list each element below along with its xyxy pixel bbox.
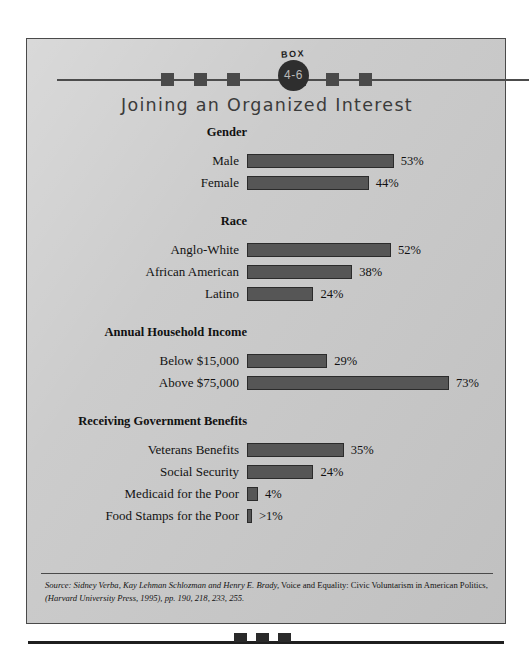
box-panel: BOX 4-6 Joining an Organized Interest Ge… bbox=[26, 38, 506, 624]
source-publisher: (Harvard University Press, 1995), bbox=[45, 593, 163, 603]
group-heading: Race bbox=[27, 214, 247, 229]
badge-number: 4-6 bbox=[278, 60, 309, 91]
bar-value: 53% bbox=[401, 154, 424, 169]
chart-group-1: GenderMale53%Female44% bbox=[27, 125, 507, 194]
source-prefix: Source: bbox=[45, 580, 71, 590]
bar-fill bbox=[247, 509, 252, 523]
bar-row: Medicaid for the Poor4% bbox=[27, 483, 507, 505]
bar-track: 4% bbox=[247, 487, 507, 502]
badge-box-label: BOX bbox=[270, 47, 317, 60]
bar-fill bbox=[247, 443, 344, 457]
source-divider bbox=[41, 573, 493, 574]
bar-value: 35% bbox=[351, 443, 374, 458]
bar-row: Anglo-White52% bbox=[27, 239, 507, 261]
bar-row: Male53% bbox=[27, 150, 507, 172]
top-decorative-square-1 bbox=[161, 73, 174, 86]
bar-value: 38% bbox=[359, 265, 382, 280]
bar-track: 35% bbox=[247, 443, 507, 458]
bar-row: Above $75,00073% bbox=[27, 372, 507, 394]
bar-row: Latino24% bbox=[27, 283, 507, 305]
bar-row: African American38% bbox=[27, 261, 507, 283]
group-spacer bbox=[27, 140, 507, 150]
bar-value: 52% bbox=[398, 243, 421, 258]
bar-track: 52% bbox=[247, 243, 507, 258]
bar-label: Veterans Benefits bbox=[27, 442, 247, 458]
group-heading: Annual Household Income bbox=[27, 325, 247, 340]
chart-group-3: Annual Household IncomeBelow $15,00029%A… bbox=[27, 325, 507, 394]
bar-row: Female44% bbox=[27, 172, 507, 194]
bar-fill bbox=[247, 487, 258, 501]
bar-value: 4% bbox=[265, 487, 282, 502]
top-decorative-square-6 bbox=[359, 73, 372, 86]
box-badge: BOX 4-6 bbox=[270, 49, 316, 105]
bar-label: Below $15,000 bbox=[27, 353, 247, 369]
bar-label: Female bbox=[27, 175, 247, 191]
chart-group-4: Receiving Government BenefitsVeterans Be… bbox=[27, 414, 507, 527]
bar-label: African American bbox=[27, 264, 247, 280]
bottom-decorative-square-1 bbox=[234, 633, 247, 642]
bar-row: Veterans Benefits35% bbox=[27, 439, 507, 461]
bar-fill bbox=[247, 376, 449, 390]
bar-row: Food Stamps for the Poor>1% bbox=[27, 505, 507, 527]
bar-track: 53% bbox=[247, 154, 507, 169]
chart-group-2: RaceAnglo-White52%African American38%Lat… bbox=[27, 214, 507, 305]
top-decorative-square-2 bbox=[194, 73, 207, 86]
bar-label: Male bbox=[27, 153, 247, 169]
top-decorative-square-3 bbox=[227, 73, 240, 86]
bar-row: Below $15,00029% bbox=[27, 350, 507, 372]
bar-track: 44% bbox=[247, 176, 507, 191]
bar-value: 24% bbox=[320, 287, 343, 302]
bar-fill bbox=[247, 287, 313, 301]
bar-value: 73% bbox=[456, 376, 479, 391]
group-spacer bbox=[27, 340, 507, 350]
group-spacer bbox=[27, 229, 507, 239]
bar-label: Food Stamps for the Poor bbox=[27, 508, 247, 524]
source-pages: pp. 190, 218, 233, 255. bbox=[165, 593, 245, 603]
bar-row: Social Security24% bbox=[27, 461, 507, 483]
source-work: Voice and Equality: Civic Voluntarism in… bbox=[281, 580, 488, 590]
chart-area: GenderMale53%Female44%RaceAnglo-White52%… bbox=[27, 125, 507, 527]
bar-value: >1% bbox=[259, 509, 283, 524]
bar-label: Anglo-White bbox=[27, 242, 247, 258]
bar-fill bbox=[247, 265, 352, 279]
bottom-decorative-square-3 bbox=[278, 633, 291, 642]
bar-label: Above $75,000 bbox=[27, 375, 247, 391]
bar-fill bbox=[247, 465, 313, 479]
bar-track: 73% bbox=[247, 376, 507, 391]
bar-track: >1% bbox=[247, 509, 507, 524]
bar-track: 24% bbox=[247, 287, 507, 302]
source-citation: Source: Sidney Verba, Kay Lehman Schlozm… bbox=[45, 579, 493, 605]
page-title: Joining an Organized Interest bbox=[27, 95, 507, 115]
group-heading: Gender bbox=[27, 125, 247, 140]
bar-fill bbox=[247, 354, 327, 368]
group-heading: Receiving Government Benefits bbox=[27, 414, 247, 429]
source-authors: Sidney Verba, Kay Lehman Schlozman and H… bbox=[74, 580, 280, 590]
bar-fill bbox=[247, 176, 369, 190]
bar-fill bbox=[247, 154, 394, 168]
bar-track: 24% bbox=[247, 465, 507, 480]
bar-track: 29% bbox=[247, 354, 507, 369]
bar-value: 24% bbox=[320, 465, 343, 480]
bar-value: 29% bbox=[334, 354, 357, 369]
top-decorative-square-5 bbox=[326, 73, 339, 86]
bar-track: 38% bbox=[247, 265, 507, 280]
bar-label: Social Security bbox=[27, 464, 247, 480]
bar-label: Latino bbox=[27, 286, 247, 302]
group-spacer bbox=[27, 429, 507, 439]
bar-label: Medicaid for the Poor bbox=[27, 486, 247, 502]
bar-fill bbox=[247, 243, 391, 257]
bar-value: 44% bbox=[376, 176, 399, 191]
bottom-decorative-square-2 bbox=[256, 633, 269, 642]
